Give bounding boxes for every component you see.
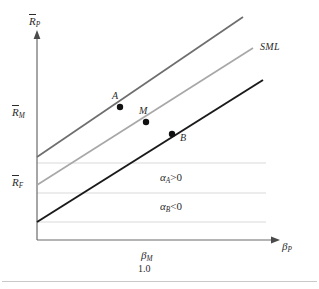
y-axis bbox=[34, 30, 41, 240]
y-axis-title: RP bbox=[29, 14, 40, 29]
data-point-m[interactable] bbox=[143, 119, 149, 125]
y-tick-label-rf: RF bbox=[12, 175, 23, 190]
y-tick-rm-base: R bbox=[12, 105, 19, 118]
x-axis bbox=[37, 237, 280, 244]
gridlines bbox=[37, 163, 266, 222]
data-point-b[interactable] bbox=[169, 131, 175, 137]
series-line-b bbox=[37, 80, 263, 222]
y-axis-arrow-icon bbox=[34, 30, 41, 39]
x-axis-arrow-icon bbox=[271, 237, 280, 244]
figure-bottom-rule bbox=[2, 281, 317, 282]
x-tick-label-bm: βM bbox=[141, 250, 153, 263]
data-point-label-m: M bbox=[139, 106, 147, 116]
y-axis-title-sub: P bbox=[36, 21, 40, 29]
series-line-a bbox=[37, 17, 243, 157]
data-point-label-b: B bbox=[180, 133, 186, 143]
x-axis-title-sub: P bbox=[287, 246, 291, 254]
y-tick-rf-sub: F bbox=[19, 182, 23, 190]
x-axis-title: βP bbox=[282, 241, 292, 254]
y-tick-rm-sub: M bbox=[19, 112, 25, 120]
annotation-alpha-a: αA>0 bbox=[160, 172, 182, 185]
data-point-label-a: A bbox=[112, 91, 118, 101]
series-label-sml: SML bbox=[260, 42, 280, 52]
x-tick-value-bm: 1.0 bbox=[138, 264, 151, 274]
y-tick-rf-base: R bbox=[12, 175, 19, 188]
annotation-alpha-a-relation: >0 bbox=[170, 171, 182, 183]
y-tick-label-rm: RM bbox=[12, 105, 25, 120]
chart-figure: RP RM RF βP βM 1.0 SML A M B αA>0 αB<0 bbox=[0, 0, 319, 289]
y-axis-title-base: R bbox=[29, 14, 36, 27]
data-point-a[interactable] bbox=[117, 104, 123, 110]
series-line-sml bbox=[37, 48, 253, 185]
annotation-alpha-b: αB<0 bbox=[160, 201, 182, 214]
x-tick-bm-sub: M bbox=[146, 255, 152, 263]
annotation-alpha-b-relation: <0 bbox=[170, 200, 182, 212]
